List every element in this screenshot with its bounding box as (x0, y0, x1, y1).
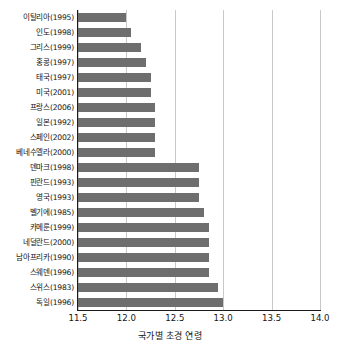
bar-row (78, 148, 155, 157)
x-axis-ticks: 11.512.012.513.013.514.0 (0, 312, 340, 326)
bar-row (78, 283, 218, 292)
bar-row (78, 268, 209, 277)
x-axis-tick-label: 12.0 (117, 312, 136, 324)
bar-row (78, 163, 199, 172)
y-axis-label: 미국(2001) (0, 88, 74, 97)
bar (78, 223, 209, 232)
y-axis-label: 프랑스(2006) (0, 103, 74, 112)
bar-row (78, 43, 141, 52)
y-axis-label: 스웨덴(1996) (0, 268, 74, 277)
y-axis-label: 핀란드(1993) (0, 178, 74, 187)
y-axis-label: 영국(1993) (0, 193, 74, 202)
y-axis-label: 벨기에(1985) (0, 208, 74, 217)
bar (78, 118, 155, 127)
x-axis-tick-label: 14.0 (310, 312, 329, 324)
bar (78, 28, 131, 37)
y-axis-label: 덴마크(1998) (0, 163, 74, 172)
bar-row (78, 253, 209, 262)
bar (78, 163, 199, 172)
bar-row (78, 13, 126, 22)
plot-area (78, 10, 320, 310)
x-axis-title: 국가별 초경 연령 (0, 329, 340, 342)
y-axis-label: 남아프리카(1990) (0, 253, 74, 262)
bar-chart: 이탈리아(1995)인도(1998)그리스(1999)홍콩(1997)태국(19… (0, 0, 340, 348)
bar-row (78, 208, 204, 217)
bar (78, 103, 155, 112)
y-axis-label: 네덜란드(2000) (0, 238, 74, 247)
x-axis-tick-label: 13.5 (262, 312, 281, 324)
y-axis-label: 태국(1997) (0, 73, 74, 82)
y-axis-label: 홍콩(1997) (0, 58, 74, 67)
bar-row (78, 298, 223, 307)
y-axis-line (77, 10, 78, 311)
bar-row (78, 193, 199, 202)
bar-row (78, 73, 151, 82)
y-axis-label: 스페인(2002) (0, 133, 74, 142)
y-axis-label: 베네수엘라(2000) (0, 148, 74, 157)
y-axis-labels: 이탈리아(1995)인도(1998)그리스(1999)홍콩(1997)태국(19… (0, 10, 74, 310)
bar (78, 208, 204, 217)
bar-row (78, 88, 151, 97)
bar-row (78, 178, 199, 187)
bar (78, 268, 209, 277)
y-axis-label: 일본(1992) (0, 118, 74, 127)
bar (78, 178, 199, 187)
y-axis-label: 카메룬(1999) (0, 223, 74, 232)
bar (78, 253, 209, 262)
y-axis-label: 그리스(1999) (0, 43, 74, 52)
bar (78, 133, 155, 142)
bar (78, 73, 151, 82)
bar-series (78, 10, 320, 310)
y-axis-label: 이탈리아(1995) (0, 13, 74, 22)
bar (78, 193, 199, 202)
bar-row (78, 118, 155, 127)
bar (78, 88, 151, 97)
bar (78, 13, 126, 22)
bar-row (78, 58, 146, 67)
bar-row (78, 103, 155, 112)
x-axis-tick-label: 11.5 (68, 312, 87, 324)
bar-row (78, 133, 155, 142)
bar (78, 148, 155, 157)
y-axis-label: 인도(1998) (0, 28, 74, 37)
y-axis-label: 독일(1996) (0, 298, 74, 307)
bar (78, 298, 223, 307)
y-axis-label: 스위스(1983) (0, 283, 74, 292)
x-axis-tick-label: 12.5 (165, 312, 184, 324)
bar (78, 283, 218, 292)
x-axis-tick-label: 13.0 (214, 312, 233, 324)
bar-row (78, 28, 131, 37)
bar (78, 58, 146, 67)
bar-row (78, 223, 209, 232)
bar (78, 238, 209, 247)
bar (78, 43, 141, 52)
bar-row (78, 238, 209, 247)
